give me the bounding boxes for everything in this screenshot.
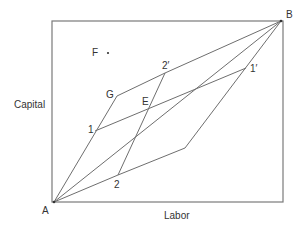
label-point-1: 1 [88,125,94,135]
label-point-g: G [106,90,114,100]
point-f-dot [107,52,109,54]
label-labor: Labor [164,211,190,221]
label-point-e: E [142,97,149,107]
origin-b-dot [280,20,283,23]
line-1-1prime [95,68,246,131]
label-point-1-prime: 1′ [250,64,257,74]
label-point-2: 2 [114,180,120,190]
label-capital: Capital [14,100,45,110]
label-point-2-prime: 2′ [162,61,169,71]
label-origin-a: A [42,206,49,216]
line-2-2prime [118,73,165,175]
label-point-f: F [92,48,98,58]
diagonal-a-b [54,21,281,202]
label-origin-b: B [286,10,293,20]
edgeworth-box-diagram [0,0,307,231]
origin-a-dot [53,201,56,204]
